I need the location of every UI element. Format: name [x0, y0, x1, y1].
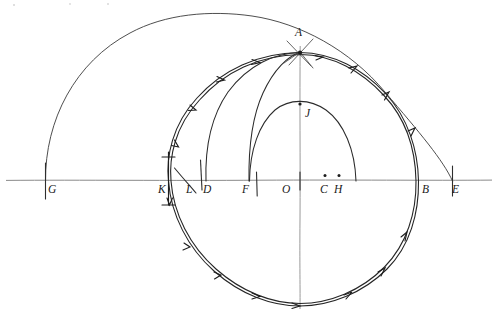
main-circle-stroke-b: [171, 55, 416, 304]
arc-from-F-to-A: [249, 53, 300, 182]
label-F: F: [241, 183, 250, 195]
tick-vertical-at-D: [201, 160, 203, 190]
dot-J: [298, 102, 301, 105]
label-H: H: [333, 183, 343, 195]
label-L: L: [185, 183, 193, 195]
circle-arrowheads: [162, 56, 415, 309]
inner-semicircle-arc: [250, 101, 357, 181]
label-E: E: [451, 183, 459, 195]
label-A: A: [294, 26, 303, 38]
label-J: J: [305, 107, 311, 119]
axis-dots: [324, 174, 341, 177]
label-K: K: [157, 183, 167, 195]
figure-canvas: G K L D F O C H B E A J: [0, 0, 498, 318]
point-labels: G K L D F O C H B E A J: [48, 26, 459, 195]
dot-H: [338, 174, 341, 177]
geometry-figure: G K L D F O C H B E A J: [0, 0, 498, 318]
label-B: B: [422, 183, 429, 195]
scan-specks: [13, 3, 109, 6]
arc-from-D-to-A: [206, 53, 300, 182]
label-D: D: [202, 183, 212, 195]
label-C: C: [320, 183, 328, 195]
tick-vertical-at-F: [257, 172, 258, 196]
label-O: O: [282, 183, 291, 195]
label-G: G: [48, 183, 57, 195]
dot-C: [324, 174, 327, 177]
